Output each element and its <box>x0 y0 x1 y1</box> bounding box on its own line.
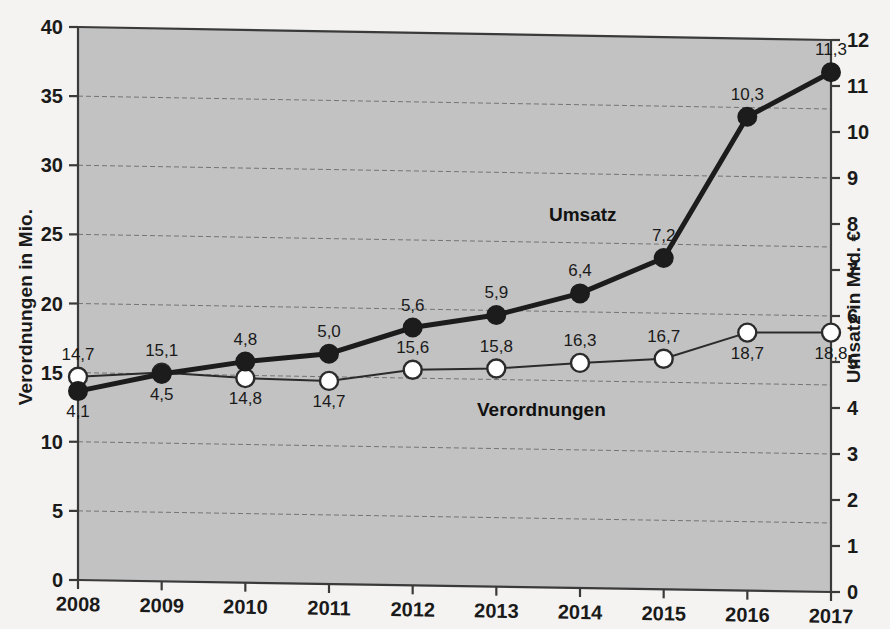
x-axis-tick-label: 2009 <box>139 594 184 617</box>
data-label: 5,0 <box>317 322 341 341</box>
data-label: 5,9 <box>484 283 508 302</box>
line-chart: 0510152025303540012345678910111220082009… <box>0 0 890 629</box>
right-axis-tick-label: 12 <box>847 29 869 51</box>
right-axis-tick-label: 0 <box>847 581 858 603</box>
data-point <box>236 353 254 371</box>
left-axis-tick-label: 20 <box>41 293 63 315</box>
right-axis-tick-label: 3 <box>847 443 858 465</box>
left-axis-tick-label: 30 <box>41 154 63 176</box>
data-label: 16,7 <box>647 327 680 346</box>
x-axis-tick-label: 2010 <box>223 595 268 618</box>
data-label: 4,8 <box>233 330 257 349</box>
data-label: 14,8 <box>229 389 262 408</box>
data-point <box>320 345 338 363</box>
x-axis-tick-label: 2017 <box>809 605 854 628</box>
left-axis-title: Verordnungen in Mio. <box>15 177 37 437</box>
data-point <box>655 249 673 267</box>
x-axis-tick-label: 2015 <box>641 602 686 625</box>
right-axis-title: Umsatz in Mrd. € <box>843 177 865 437</box>
data-point <box>487 360 505 378</box>
data-label: 11,3 <box>815 40 847 59</box>
data-label: 14,7 <box>312 392 345 411</box>
data-point <box>404 361 422 379</box>
data-label: 15,8 <box>480 337 513 356</box>
x-axis-tick-label: 2014 <box>558 601 604 624</box>
left-axis-tick-label: 15 <box>41 362 63 384</box>
data-point <box>822 324 840 342</box>
data-label: 4,5 <box>150 385 174 404</box>
left-axis-tick-label: 0 <box>52 569 63 591</box>
x-axis-tick-label: 2016 <box>725 603 770 626</box>
data-label: 18,7 <box>731 344 764 363</box>
left-axis-ticks: 0510152025303540 <box>41 16 78 591</box>
left-axis-tick-label: 35 <box>41 85 63 107</box>
data-label: 14,7 <box>61 345 94 364</box>
right-axis-tick-label: 2 <box>847 489 858 511</box>
data-label: 5,6 <box>401 296 425 315</box>
data-point <box>69 382 87 400</box>
left-axis-tick-label: 5 <box>52 500 63 522</box>
left-axis-tick-label: 40 <box>41 16 63 38</box>
data-point <box>738 324 756 342</box>
series-label-verordnungen: Verordnungen <box>477 399 606 421</box>
x-axis-tick-label: 2011 <box>307 597 351 620</box>
data-point <box>571 354 589 372</box>
x-axis-tick-label: 2012 <box>390 598 435 621</box>
data-point <box>655 350 673 368</box>
data-label: 4,1 <box>66 402 90 421</box>
right-axis-tick-label: 1 <box>847 535 858 557</box>
data-label: 7,2 <box>652 226 676 245</box>
series-label-umsatz: Umsatz <box>549 204 617 226</box>
left-axis-tick-label: 25 <box>41 223 63 245</box>
data-point <box>153 365 171 383</box>
data-point <box>404 319 422 337</box>
data-label: 6,4 <box>568 261 592 280</box>
data-point <box>738 108 756 126</box>
left-axis-tick-label: 10 <box>41 431 63 453</box>
x-axis-tick-label: 2013 <box>474 599 519 622</box>
data-point <box>487 306 505 324</box>
data-point <box>236 369 254 387</box>
data-point <box>320 372 338 390</box>
data-label: 15,1 <box>145 341 178 360</box>
data-label: 16,3 <box>563 331 596 350</box>
data-label: 15,6 <box>396 338 429 357</box>
right-axis-tick-label: 10 <box>847 121 869 143</box>
chart-container: 0510152025303540012345678910111220082009… <box>0 0 890 629</box>
right-axis-tick-label: 11 <box>847 75 868 97</box>
data-point <box>822 63 840 81</box>
x-axis-tick-label: 2008 <box>56 593 101 616</box>
data-point <box>571 284 589 302</box>
data-label: 10,3 <box>731 85 764 104</box>
